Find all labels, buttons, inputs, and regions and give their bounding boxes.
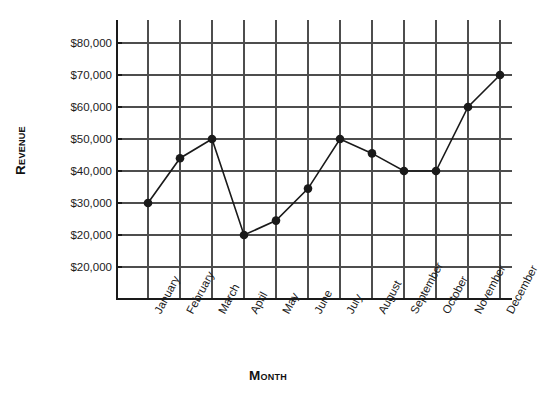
data-point-marker: July: 50000 xyxy=(336,135,345,144)
data-point-marker: August: 45500 xyxy=(368,149,377,158)
data-point-marker: February: 44000 xyxy=(176,154,185,163)
y-tick-label: $70,000 xyxy=(38,69,112,81)
data-point-marker: September: 40000 xyxy=(400,167,409,176)
y-tick-label: $40,000 xyxy=(38,165,112,177)
axis-lines xyxy=(116,20,512,300)
plot-area: January: 30000February: 44000March: 5000… xyxy=(116,20,512,300)
data-point-marker: October: 40000 xyxy=(432,167,441,176)
data-point-marker: June: 34500 xyxy=(304,184,313,193)
data-point-marker: December: 70000 xyxy=(496,71,505,80)
y-tick-label: $80,000 xyxy=(38,37,112,49)
vertical-gridlines xyxy=(148,20,500,300)
horizontal-gridlines xyxy=(116,43,512,267)
data-point-marker: May: 24500 xyxy=(272,216,281,225)
data-point-marker: January: 30000 xyxy=(144,199,153,208)
y-tick-label: $50,000 xyxy=(38,133,112,145)
revenue-data-markers: January: 30000February: 44000March: 5000… xyxy=(144,71,505,240)
data-point-marker: April: 20000 xyxy=(240,231,249,240)
data-point-marker: March: 50000 xyxy=(208,135,217,144)
x-axis-title-label: Month xyxy=(249,368,287,383)
y-tick-label: $30,000 xyxy=(38,197,112,209)
y-axis-title-label: Revenue xyxy=(13,126,28,175)
y-tick-label: $20,000 xyxy=(38,261,112,273)
y-tick-label: $60,000 xyxy=(38,101,112,113)
x-axis-title: Month xyxy=(0,368,536,383)
data-point-marker: November: 60000 xyxy=(464,103,473,112)
y-tick-label: $20,000 xyxy=(38,229,112,241)
y-axis-tick-labels: $80,000$70,000$60,000$50,000$40,000$30,0… xyxy=(34,0,112,404)
revenue-data-line xyxy=(148,75,500,235)
